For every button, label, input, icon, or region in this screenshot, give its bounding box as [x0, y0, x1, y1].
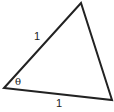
side-ab-label: 1	[34, 31, 40, 42]
triangle-shape	[0, 0, 114, 112]
side-ac-label: 1	[56, 98, 62, 109]
triangle-diagram: 1 θ 1	[0, 0, 114, 112]
angle-theta-label: θ	[15, 77, 21, 87]
